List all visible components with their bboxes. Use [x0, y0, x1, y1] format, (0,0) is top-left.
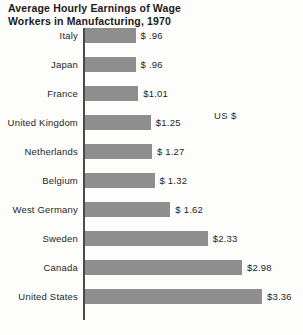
category-label: Japan [0, 57, 78, 72]
bar-chart: Average Hourly Earnings of Wage Workers … [0, 0, 303, 335]
bar [85, 28, 136, 43]
bar [85, 144, 152, 159]
bar-row: Italy $ .96 [0, 28, 303, 57]
category-label: United States [0, 289, 78, 304]
category-label: Sweden [0, 231, 78, 246]
bar [85, 57, 136, 72]
bar-value-label: $2.98 [247, 260, 272, 275]
chart-title: Average Hourly Earnings of Wage Workers … [8, 2, 233, 27]
bar-row: France $1.01 [0, 86, 303, 115]
category-label: United Kingdom [0, 115, 78, 130]
category-label: Italy [0, 28, 78, 43]
bar [85, 86, 138, 101]
bar-row: United States $3.36 [0, 289, 303, 318]
category-label: Canada [0, 260, 78, 275]
category-label: Belgium [0, 173, 78, 188]
bar-row: United Kingdom $1.25 [0, 115, 303, 144]
bar-row: Canada $2.98 [0, 260, 303, 289]
bar [85, 115, 151, 130]
bar-row: Netherlands $ 1.27 [0, 144, 303, 173]
bar-value-label: $1.25 [156, 115, 181, 130]
bar-row: Sweden $2.33 [0, 231, 303, 260]
bar-value-label: $ .96 [141, 57, 163, 72]
bar-value-label: $ 1.62 [175, 202, 203, 217]
bar-row: Belgium $ 1.32 [0, 173, 303, 202]
bar [85, 289, 262, 304]
bar-row: West Germany $ 1.62 [0, 202, 303, 231]
category-label: France [0, 86, 78, 101]
bar [85, 231, 208, 246]
bar-value-label: $1.01 [143, 86, 168, 101]
bar-value-label: $ 1.27 [157, 144, 185, 159]
bar-value-label: $ .96 [141, 28, 163, 43]
bar [85, 173, 155, 188]
plot-area: US $ Italy $ .96 Japan $ .96 France $1.0… [0, 28, 303, 328]
bar [85, 202, 170, 217]
bar-value-label: $3.36 [267, 289, 292, 304]
category-label: West Germany [0, 202, 78, 217]
bar-value-label: $ 1.32 [160, 173, 188, 188]
bar [85, 260, 242, 275]
bar-value-label: $2.33 [213, 231, 238, 246]
category-label: Netherlands [0, 144, 78, 159]
bar-row: Japan $ .96 [0, 57, 303, 86]
